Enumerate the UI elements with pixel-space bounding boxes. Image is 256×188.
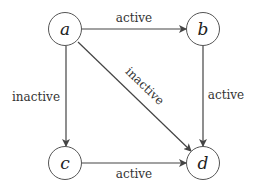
node-label-a: a	[60, 19, 70, 39]
edge-label-a-b: active	[116, 11, 152, 25]
node-c: c	[49, 147, 82, 180]
edge-label-b-d: active	[208, 88, 244, 102]
node-label-d: d	[198, 153, 209, 173]
node-b: b	[187, 13, 220, 46]
edge-a-b: active	[82, 11, 186, 29]
edge-label-c-d: active	[116, 167, 152, 181]
node-label-b: b	[198, 19, 209, 39]
edge-label-a-c: inactive	[12, 90, 60, 104]
node-label-c: c	[60, 153, 70, 173]
edge-b-d: active	[203, 46, 244, 146]
node-d: d	[187, 147, 220, 180]
edge-a-c: inactive	[12, 46, 66, 146]
edge-a-d: inactive	[78, 42, 191, 151]
node-a: a	[49, 13, 82, 46]
graph-diagram: active inactive inactive active active a…	[0, 0, 256, 188]
edge-c-d: active	[82, 163, 186, 181]
edge-label-a-d: inactive	[123, 64, 167, 107]
